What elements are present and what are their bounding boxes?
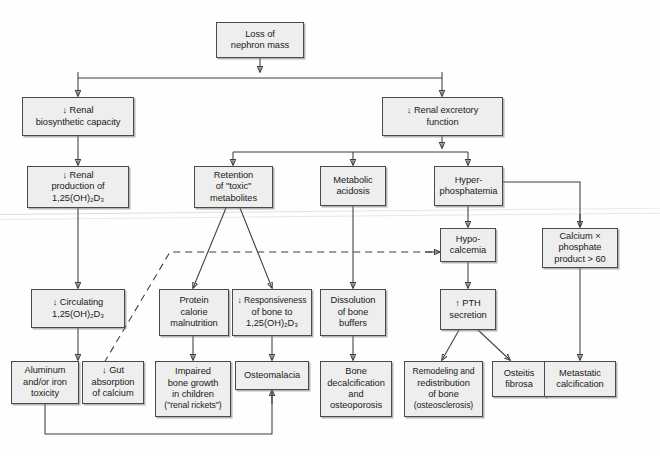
edge-hyperphos-caxphos	[503, 182, 580, 226]
node-remodeling-redistribution-of-bone[interactable]: Remodeling and redistribution of bone (o…	[404, 361, 483, 417]
node-line: Protein	[163, 295, 225, 306]
node-osteomalacia[interactable]: Osteomalacia	[235, 361, 309, 390]
node-line: Retention	[198, 170, 269, 181]
edge-retention-responsiveness	[240, 208, 272, 288]
node-line: of bone	[324, 307, 382, 318]
node-line: bone growth	[159, 378, 227, 389]
node-protein-calorie-malnutrition[interactable]: Protein calorie malnutrition	[159, 289, 229, 336]
node-pth-secretion[interactable]: ↑ PTH secretion	[440, 289, 496, 330]
scan-artifact-line-2	[0, 213, 660, 220]
edge-retention-pcm	[193, 208, 226, 288]
node-line: redistribution	[408, 378, 479, 389]
node-metabolic-acidosis[interactable]: Metabolic acidosis	[320, 166, 386, 206]
node-osteitis-fibrosa[interactable]: Osteitis fibrosa	[492, 361, 546, 397]
node-line: 1,25(OH)₂D₃	[31, 193, 125, 204]
node-gut-absorption-of-calcium[interactable]: ↓ Gut absorption of calcium	[82, 361, 144, 404]
node-line: acidosis	[324, 186, 382, 197]
node-line: buffers	[324, 318, 382, 329]
node-line: ↑ PTH	[444, 298, 492, 309]
node-line: secretion	[444, 310, 492, 321]
edge-pth-remodeling	[442, 330, 459, 360]
node-line: Hypo-	[444, 234, 492, 245]
node-line: Metabolic	[324, 175, 382, 186]
node-line: ↓ Gut	[86, 365, 140, 376]
node-renal-biosynthetic-capacity[interactable]: ↓ Renal biosynthetic capacity	[22, 97, 134, 136]
node-aluminum-iron-toxicity[interactable]: Aluminum and/or iron toxicity	[11, 361, 79, 404]
node-line: 1,25(OH)₂D₃	[35, 309, 121, 320]
node-circulating-1-25-oh-2-d3[interactable]: ↓ Circulating 1,25(OH)₂D₃	[31, 289, 125, 328]
node-line: Dissolution	[324, 295, 382, 306]
node-line: Remodeling and	[408, 366, 479, 377]
node-line: Aluminum	[15, 365, 75, 376]
node-line: ↓ Renal excretory	[386, 105, 499, 116]
node-impaired-bone-growth[interactable]: Impaired bone growth in children ("renal…	[155, 361, 231, 417]
node-line: in children	[159, 389, 227, 400]
scan-artifact-line	[0, 208, 660, 215]
node-line: malnutrition	[163, 318, 225, 329]
node-metastatic-calcification[interactable]: Metastatic calcification	[544, 361, 616, 397]
node-line: ("renal rickets")	[159, 400, 227, 411]
node-line: calcification	[548, 379, 612, 390]
node-line: phosphatemia	[438, 186, 499, 197]
node-line: product > 60	[546, 254, 614, 265]
node-line: of "toxic"	[198, 181, 269, 192]
node-line: (osteosclerosis)	[408, 400, 479, 411]
node-line: and	[324, 389, 388, 400]
node-line: of calcium	[86, 388, 140, 399]
node-line: metabolites	[198, 193, 269, 204]
node-line: of bone	[408, 389, 479, 400]
node-hypocalcemia[interactable]: Hypo- calcemia	[440, 228, 496, 262]
node-line: function	[386, 117, 499, 128]
node-line: ↓ Renal	[31, 170, 125, 181]
node-line: calorie	[163, 307, 225, 318]
node-line: Osteitis	[496, 368, 542, 379]
node-loss-of-nephron-mass[interactable]: Loss of nephron mass	[216, 22, 304, 58]
node-retention-toxic-metabolites[interactable]: Retention of "toxic" metabolites	[194, 166, 273, 208]
node-line: Bone	[324, 366, 388, 377]
node-line: production of	[31, 181, 125, 192]
node-calcium-phosphate-product[interactable]: Calcium × phosphate product > 60	[542, 228, 618, 268]
node-line: Impaired	[159, 366, 227, 377]
node-hyperphosphatemia[interactable]: Hyper- phosphatemia	[434, 166, 503, 206]
node-line: phosphate	[546, 242, 614, 253]
node-line: Hyper-	[438, 175, 499, 186]
node-line: toxicity	[15, 388, 75, 399]
node-line: of bone to	[236, 307, 308, 318]
edge-pth-osteitis	[478, 330, 510, 360]
node-line: Calcium ×	[546, 231, 614, 242]
node-dissolution-of-bone-buffers[interactable]: Dissolution of bone buffers	[320, 289, 386, 336]
node-line: Osteomalacia	[239, 370, 305, 381]
node-line: Loss of	[220, 29, 300, 40]
node-bone-decalcification-osteoporosis[interactable]: Bone decalcification and osteoporosis	[320, 361, 392, 417]
node-line: and/or iron	[15, 377, 75, 388]
node-renal-production-1-25-oh-2-d3[interactable]: ↓ Renal production of 1,25(OH)₂D₃	[27, 166, 129, 208]
node-line: calcemia	[444, 245, 492, 256]
node-line: ↓ Renal	[26, 105, 130, 116]
node-line: ↓ Responsiveness	[236, 295, 308, 306]
node-line: decalcification	[324, 378, 388, 389]
node-line: biosynthetic capacity	[26, 117, 130, 128]
node-responsiveness-of-bone[interactable]: ↓ Responsiveness of bone to 1,25(OH)₂D₃	[232, 289, 312, 336]
node-line: ↓ Circulating	[35, 297, 121, 308]
node-line: fibrosa	[496, 379, 542, 390]
node-line: Metastatic	[548, 368, 612, 379]
node-line: osteoporosis	[324, 400, 388, 411]
node-line: nephron mass	[220, 40, 300, 51]
flowchart-canvas: Loss of nephron mass ↓ Renal biosyntheti…	[0, 0, 660, 456]
node-line: 1,25(OH)₂D₃	[236, 318, 308, 329]
node-line: absorption	[86, 377, 140, 388]
node-renal-excretory-function[interactable]: ↓ Renal excretory function	[382, 97, 503, 136]
